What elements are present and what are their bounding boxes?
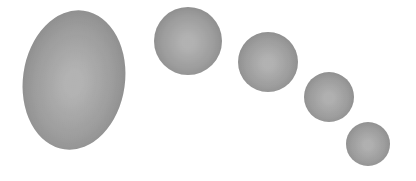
sphere-5 — [346, 122, 390, 166]
large-ellipse — [14, 4, 134, 157]
illustration-canvas — [0, 0, 416, 181]
sphere-2 — [154, 7, 222, 75]
sphere-3 — [238, 32, 298, 92]
sphere-4 — [304, 72, 354, 122]
